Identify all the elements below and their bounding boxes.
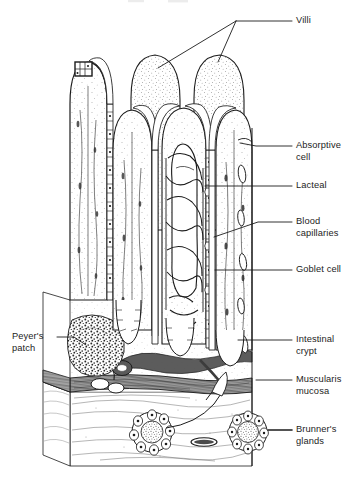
lacteal-vessel <box>172 144 198 297</box>
label-goblet-cell: Goblet cell <box>296 264 341 276</box>
submucosa-side-face <box>43 382 70 466</box>
villus-1 <box>70 62 107 300</box>
label-blood-capillaries: Blood capillaries <box>296 216 338 239</box>
villus-2 <box>113 110 152 330</box>
label-peyers-patch: Peyer's patch <box>12 331 43 354</box>
label-absorptive-cell: Absorptive cell <box>296 140 341 163</box>
epithelium-detail-box <box>75 62 92 76</box>
label-muscularis-mucosa: Muscularis mucosa <box>296 374 341 397</box>
label-brunners-glands: Brunner's glands <box>296 424 336 447</box>
label-intestinal-crypt: Intestinal crypt <box>296 334 334 357</box>
epithelial-cell-divisions <box>107 112 113 292</box>
brunners-gland-2 <box>228 411 269 454</box>
label-villi: Villi <box>296 15 311 27</box>
label-lacteal: Lacteal <box>296 180 327 192</box>
brunners-gland-1 <box>129 410 174 455</box>
